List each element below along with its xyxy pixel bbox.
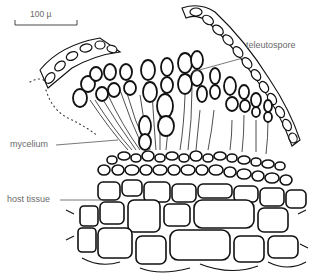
host-tissue-cells: [66, 180, 308, 272]
label-host-tissue: host tissue: [7, 195, 50, 204]
label-mycelium: mycelium: [10, 140, 48, 149]
teleutospores: [73, 51, 272, 150]
mycelium-leader-line: [56, 140, 118, 145]
diagram-figure: 100 µ teleutospore mycelium host tissue: [0, 0, 310, 279]
scale-bar: [15, 20, 77, 25]
label-teleutospore: teleutospore: [246, 41, 296, 50]
scale-bar-label: 100 µ: [30, 10, 51, 19]
